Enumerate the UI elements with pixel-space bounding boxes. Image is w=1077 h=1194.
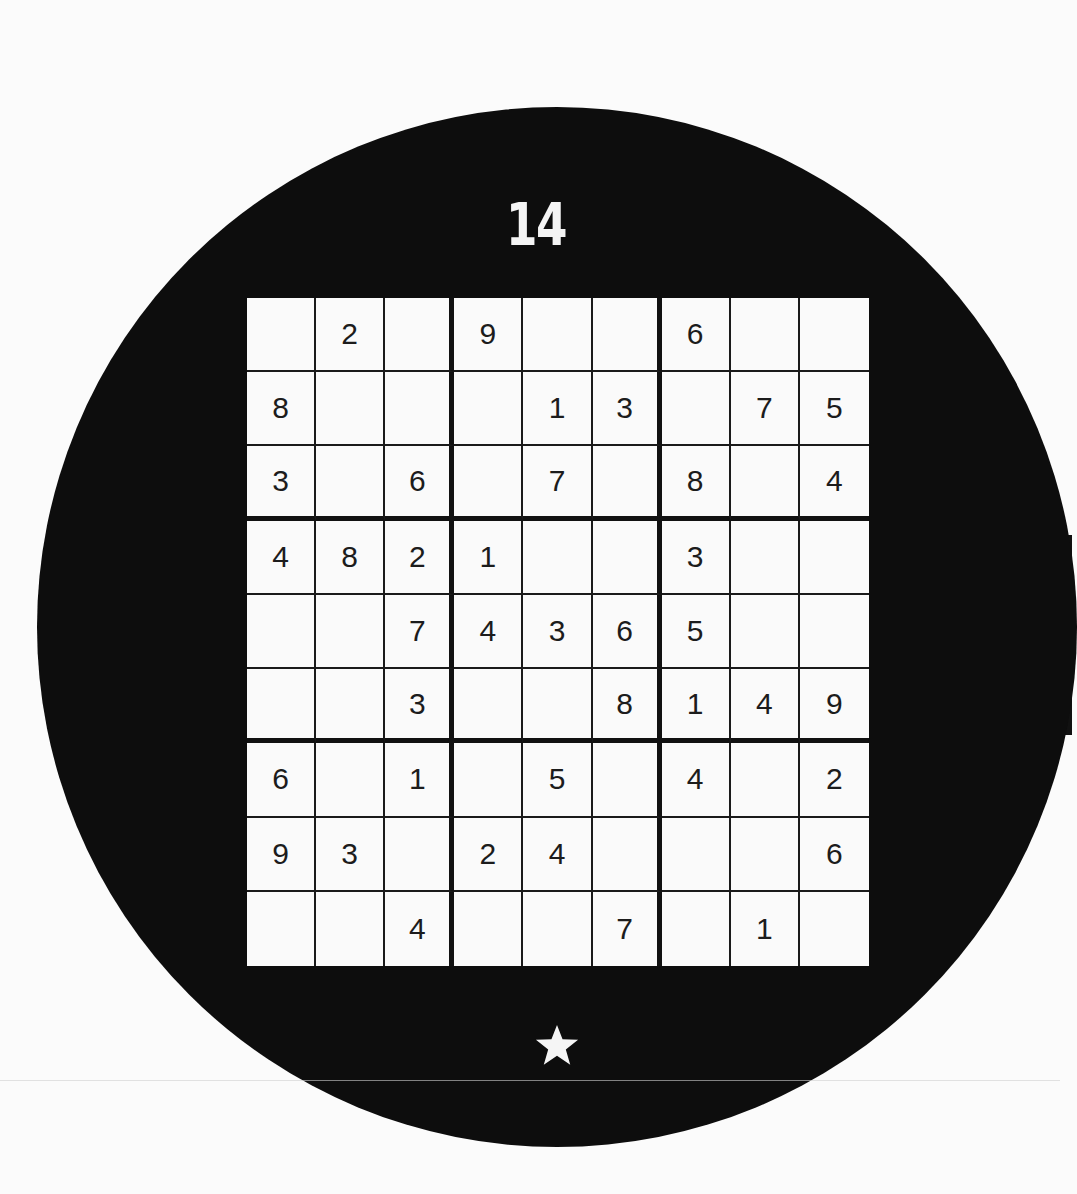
empty-cell[interactable] [316,743,385,817]
empty-cell[interactable] [454,372,523,446]
page-divider-line [0,1080,1060,1081]
given-cell: 7 [523,446,592,520]
given-cell: 1 [385,743,454,817]
empty-cell[interactable] [731,595,800,669]
given-cell: 4 [247,521,316,595]
given-cell: 5 [662,595,731,669]
empty-cell[interactable] [316,669,385,743]
empty-cell[interactable] [593,446,662,520]
empty-cell[interactable] [385,818,454,892]
given-cell: 7 [593,892,662,966]
empty-cell[interactable] [316,892,385,966]
empty-cell[interactable] [593,521,662,595]
empty-cell[interactable] [523,521,592,595]
given-cell: 1 [731,892,800,966]
empty-cell[interactable] [523,669,592,743]
empty-cell[interactable] [523,892,592,966]
empty-cell[interactable] [731,521,800,595]
given-cell: 2 [385,521,454,595]
empty-cell[interactable] [385,372,454,446]
given-cell: 1 [454,521,523,595]
empty-cell[interactable] [454,669,523,743]
given-cell: 6 [800,818,869,892]
empty-cell[interactable] [662,818,731,892]
given-cell: 3 [316,818,385,892]
given-cell: 6 [247,743,316,817]
given-cell: 5 [800,372,869,446]
empty-cell[interactable] [247,669,316,743]
given-cell: 8 [662,446,731,520]
given-cell: 9 [247,818,316,892]
empty-cell[interactable] [800,298,869,372]
empty-cell[interactable] [454,743,523,817]
empty-cell[interactable] [662,892,731,966]
empty-cell[interactable] [800,595,869,669]
empty-cell[interactable] [247,595,316,669]
star-icon [534,1022,580,1068]
given-cell: 3 [593,372,662,446]
given-cell: 9 [454,298,523,372]
given-cell: 4 [800,446,869,520]
given-cell: 9 [800,669,869,743]
empty-cell[interactable] [523,298,592,372]
empty-cell[interactable] [800,521,869,595]
given-cell: 6 [385,446,454,520]
empty-cell[interactable] [800,892,869,966]
given-cell: 3 [523,595,592,669]
given-cell: 2 [454,818,523,892]
empty-cell[interactable] [247,298,316,372]
given-cell: 8 [593,669,662,743]
empty-cell[interactable] [385,298,454,372]
given-cell: 6 [593,595,662,669]
given-cell: 7 [385,595,454,669]
empty-cell[interactable] [731,743,800,817]
given-cell: 4 [385,892,454,966]
empty-cell[interactable] [731,298,800,372]
puzzle-number: 14 [123,180,950,270]
empty-cell[interactable] [662,372,731,446]
empty-cell[interactable] [593,298,662,372]
empty-cell[interactable] [593,743,662,817]
given-cell: 3 [662,521,731,595]
given-cell: 2 [800,743,869,817]
given-cell: 6 [662,298,731,372]
given-cell: 4 [454,595,523,669]
empty-cell[interactable] [593,818,662,892]
empty-cell[interactable] [316,595,385,669]
given-cell: 8 [316,521,385,595]
given-cell: 4 [731,669,800,743]
given-cell: 3 [385,669,454,743]
empty-cell[interactable] [454,892,523,966]
given-cell: 1 [523,372,592,446]
given-cell: 7 [731,372,800,446]
empty-cell[interactable] [731,818,800,892]
given-cell: 1 [662,669,731,743]
given-cell: 4 [662,743,731,817]
given-cell: 2 [316,298,385,372]
empty-cell[interactable] [731,446,800,520]
given-cell: 3 [247,446,316,520]
given-cell: 8 [247,372,316,446]
sudoku-grid: 2968137536784482137436538149615429324647… [247,298,869,966]
empty-cell[interactable] [454,446,523,520]
empty-cell[interactable] [247,892,316,966]
given-cell: 5 [523,743,592,817]
empty-cell[interactable] [316,372,385,446]
given-cell: 4 [523,818,592,892]
empty-cell[interactable] [316,446,385,520]
